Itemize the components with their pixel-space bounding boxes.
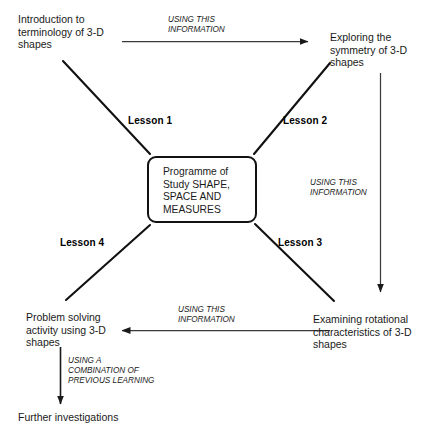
node-further-investigations: Further investigations (18, 411, 178, 424)
edge-label-bottom: USING THIS INFORMATION (178, 305, 288, 325)
node-symmetry: Exploring the symmetry of 3-D shapes (330, 31, 434, 69)
node-problem-solving: Problem solving activity using 3-D shape… (26, 311, 146, 349)
spoke-lesson-3 (255, 224, 334, 301)
edge-label-right: USING THIS INFORMATION (310, 178, 390, 198)
diagram-canvas: Programme of Study SHAPE, SPACE AND MEAS… (0, 0, 434, 440)
spoke-lesson-1 (63, 61, 150, 154)
edge-label-left-down: USING A COMBINATION OF PREVIOUS LEARNING (68, 356, 198, 387)
node-intro: Introduction to terminology of 3-D shape… (18, 13, 138, 51)
node-rotational: Examining rotational characteristics of … (313, 313, 434, 351)
lesson-label-1: Lesson 1 (128, 115, 172, 126)
edge-label-top: USING THIS INFORMATION (168, 15, 278, 35)
lesson-label-2: Lesson 2 (283, 115, 327, 126)
center-node-label: Programme of Study SHAPE, SPACE AND MEAS… (163, 166, 230, 216)
lesson-label-3: Lesson 3 (278, 237, 322, 248)
lesson-label-4: Lesson 4 (60, 237, 104, 248)
spoke-lesson-2 (254, 63, 330, 154)
center-node: Programme of Study SHAPE, SPACE AND MEAS… (147, 156, 257, 223)
